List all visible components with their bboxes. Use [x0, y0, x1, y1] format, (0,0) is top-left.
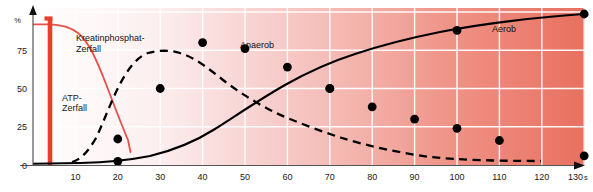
x-tick-label-60: 60 [282, 172, 292, 182]
x-tick-label-110: 110 [492, 172, 506, 182]
x-tick-label-90: 90 [410, 172, 420, 182]
x-tick-label-100: 100 [449, 172, 464, 182]
series-label-anaerob: Anaerob [240, 40, 274, 50]
y-tick-label-25: 25 [17, 122, 27, 132]
series-label-aerob: Aerob [492, 24, 516, 34]
y-tick-label-0: 0 [22, 161, 27, 171]
chart-canvas: % 75 50 25 0 10 20 30 40 50 60 70 80 90 … [0, 0, 593, 192]
x-tick-label-130: 130 [568, 172, 583, 182]
series-label-kreatinphosphat-line1: Kreatinphosphat- [76, 33, 145, 43]
x-tick-label-80: 80 [367, 172, 377, 182]
x-axis-unit-label: s [584, 173, 588, 182]
x-tick-label-30: 30 [155, 172, 165, 182]
x-tick-label-10: 10 [70, 172, 80, 182]
x-tick-label-70: 70 [325, 172, 335, 182]
series-label-kreatinphosphat-line2: Zerfall [76, 44, 101, 54]
x-tick-label-20: 20 [113, 172, 123, 182]
x-tick-label-120: 120 [534, 172, 549, 182]
y-tick-label-50: 50 [17, 84, 27, 94]
series-label-atp-zerfall-line1: ATP- [62, 93, 82, 103]
x-tick-label-40: 40 [198, 172, 208, 182]
x-tick-label-50: 50 [240, 172, 250, 182]
series-label-atp-zerfall-line2: Zerfall [62, 103, 87, 113]
y-axis-unit-label: % [14, 16, 21, 25]
y-tick-label-75: 75 [17, 46, 27, 56]
energy-supply-chart: % 75 50 25 0 10 20 30 40 50 60 70 80 90 … [0, 0, 593, 192]
